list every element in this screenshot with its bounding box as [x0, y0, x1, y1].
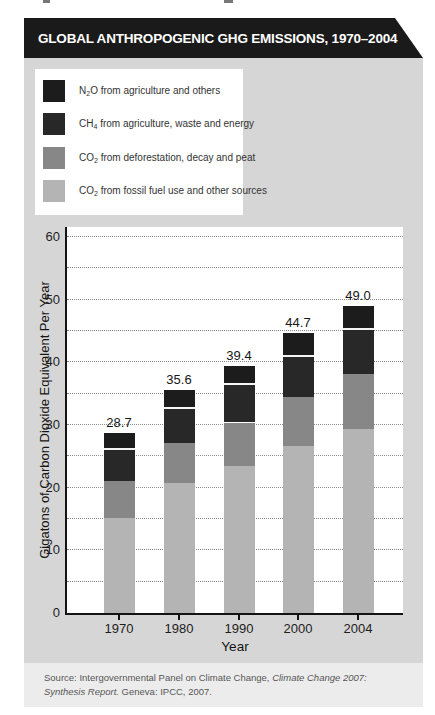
legend-item-label: CO2 from fossil fuel use and other sourc… [79, 180, 267, 202]
bar-segment [343, 330, 374, 373]
x-axis-category-label: 1990 [211, 621, 267, 636]
bar-2000 [283, 333, 314, 613]
bar-segment [283, 357, 314, 398]
cropped-text-artifact [224, 0, 233, 3]
x-axis-tick [118, 615, 120, 620]
x-axis-category-label: 1980 [151, 621, 207, 636]
bar-total-label: 44.7 [273, 315, 323, 330]
legend-item-label: CH4 from agriculture, waste and energy [79, 113, 254, 135]
bar-segment [343, 429, 374, 613]
bar-total-label: 35.6 [154, 372, 204, 387]
bar-total-label: 49.0 [333, 288, 383, 303]
source-suffix: Geneva: IPCC, 2007. [119, 686, 212, 697]
x-axis-tick [357, 615, 359, 620]
bar-segment [164, 443, 195, 483]
bar-segment [164, 409, 195, 443]
bar-segment [164, 390, 195, 409]
legend-item: CH4 from agriculture, waste and energy [35, 113, 243, 135]
figure-panel: N2O from agriculture and othersCH4 from … [24, 58, 423, 663]
legend-swatch [43, 147, 65, 169]
x-axis-title: Year [195, 639, 275, 654]
bar-segment [224, 385, 255, 423]
x-axis-tick [297, 615, 299, 620]
legend-item: CO2 from fossil fuel use and other sourc… [35, 180, 243, 202]
bar-segment [224, 366, 255, 385]
cropped-text-artifact [43, 0, 50, 3]
bar-segment [283, 446, 314, 613]
y-axis-title: Gigatons of Carbon Dioxide Equivalent Pe… [37, 227, 53, 613]
chart-title-banner: GLOBAL ANTHROPOGENIC GHG EMISSIONS, 1970… [24, 18, 423, 58]
bar-2004 [343, 306, 374, 613]
legend: N2O from agriculture and othersCH4 from … [35, 69, 243, 215]
bar-segment [224, 423, 255, 466]
x-axis-category-label: 1970 [91, 621, 147, 636]
x-axis-tick [238, 615, 240, 620]
legend-item: CO2 from deforestation, decay and peat [35, 147, 243, 169]
bar-total-label: 39.4 [214, 348, 264, 363]
bar-segment [164, 483, 195, 613]
bar-segment [104, 518, 135, 613]
gridline [67, 267, 403, 268]
bar-segment [104, 450, 135, 481]
bar-segment [343, 306, 374, 330]
legend-item-label: N2O from agriculture and others [79, 80, 220, 102]
legend-item-label: CO2 from deforestation, decay and peat [79, 147, 255, 169]
x-axis-tick [178, 615, 180, 620]
bar-1970 [104, 433, 135, 613]
chart-title: GLOBAL ANTHROPOGENIC GHG EMISSIONS, 1970… [24, 31, 397, 46]
x-axis-category-label: 2000 [270, 621, 326, 636]
legend-swatch [43, 80, 65, 102]
bar-segment [104, 433, 135, 450]
legend-item: N2O from agriculture and others [35, 80, 243, 102]
gridline [67, 236, 403, 237]
source-prefix: Source: Intergovernmental Panel on Clima… [44, 672, 272, 683]
source-text: Source: Intergovernmental Panel on Clima… [24, 663, 423, 699]
bar-1980 [164, 390, 195, 613]
legend-swatch [43, 180, 65, 202]
bar-segment [104, 481, 135, 517]
bar-segment [283, 397, 314, 445]
y-axis [65, 227, 67, 615]
source-note: Source: Intergovernmental Panel on Clima… [24, 663, 423, 707]
bar-1990 [224, 366, 255, 613]
x-axis-category-label: 2004 [330, 621, 386, 636]
bar-total-label: 28.7 [94, 415, 144, 430]
x-axis [65, 613, 403, 615]
bar-segment [343, 374, 374, 430]
legend-swatch [43, 113, 65, 135]
bar-segment [283, 333, 314, 357]
bar-segment [224, 466, 255, 613]
